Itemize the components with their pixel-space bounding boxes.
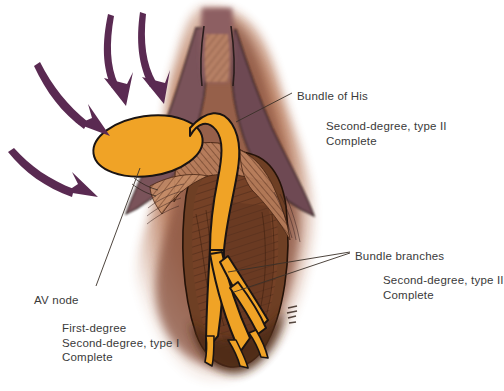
label-av-node-conditions: First-degree Second-degree, type I Compl…: [62, 321, 179, 365]
label-av-node: AV node: [34, 293, 79, 307]
condition-line: Complete: [383, 288, 504, 303]
label-bundle-branches: Bundle branches: [355, 249, 444, 263]
label-bundle-of-his: Bundle of His: [297, 89, 368, 103]
leader-av-node: [96, 168, 140, 286]
label-bundle-branches-conditions: Second-degree, type II Complete: [383, 273, 504, 302]
condition-line: Complete: [62, 350, 179, 365]
condition-line: Complete: [326, 134, 447, 149]
condition-line: Second-degree, type I: [62, 336, 179, 351]
impulse-arrow-2: [138, 12, 170, 104]
impulse-arrow-3: [34, 62, 110, 136]
label-bundle-of-his-conditions: Second-degree, type II Complete: [326, 119, 447, 148]
condition-line: Second-degree, type II: [326, 119, 447, 134]
impulse-arrow-1: [104, 14, 133, 106]
condition-line: First-degree: [62, 321, 179, 336]
condition-line: Second-degree, type II: [383, 273, 504, 288]
impulse-arrow-4: [8, 148, 98, 197]
